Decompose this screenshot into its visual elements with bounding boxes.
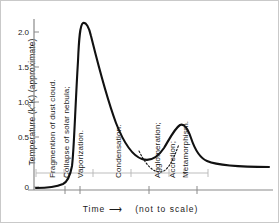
stage-label-condensation: Condensation. <box>114 124 123 178</box>
stage-label-metamorphism: Metamorphism. <box>181 121 190 178</box>
stage-label-agglomeration: Agglomeration; <box>153 122 162 178</box>
stage-label-fragmention: Fragmention of dust cloud. <box>48 79 57 178</box>
arrow-right-icon: ⟶ <box>109 204 121 214</box>
plot-area <box>1 1 279 223</box>
y-tick-marks <box>34 32 39 187</box>
x-axis-caption: Time⟶(not to scale) <box>1 204 279 214</box>
stage-label-collapse: Collapse of solar nebula; <box>62 86 71 178</box>
stage-label-accretion: Accretion; <box>168 141 177 178</box>
x-axis-title: Time <box>83 204 106 214</box>
chart-figure: Temperature (k°K) (approximate) 2.0 1.5 … <box>0 0 279 223</box>
x-axis-note: (not to scale) <box>135 204 198 214</box>
stage-label-vaporization: Vaporization. <box>76 130 85 178</box>
